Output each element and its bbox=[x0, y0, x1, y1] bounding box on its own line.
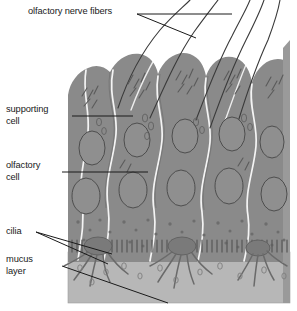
label-supporting-cell: supporting cell bbox=[6, 104, 48, 127]
label-cilia: cilia bbox=[6, 226, 22, 238]
label-olfactory-cell: olfactory cell bbox=[6, 160, 40, 183]
label-mucus-layer: mucus layer bbox=[6, 254, 33, 277]
leader-nerve-fibers-a bbox=[137, 14, 196, 38]
epithelium-illustration bbox=[0, 0, 297, 311]
label-olfactory-nerve-fibers: olfactory nerve fibers bbox=[28, 6, 112, 18]
olfactory-epithelium-diagram: olfactory nerve fibers supporting cell o… bbox=[0, 0, 297, 311]
